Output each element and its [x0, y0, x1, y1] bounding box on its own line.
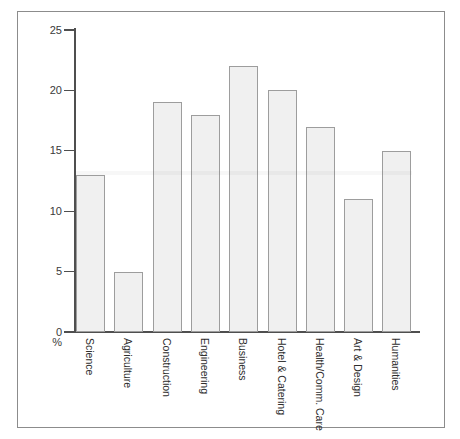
y-tick-mark-25	[64, 29, 74, 30]
y-tick-mark-0	[64, 331, 74, 332]
bar-hotel-catering	[268, 90, 297, 332]
category-label-construction: Construction	[161, 338, 173, 397]
category-label-humanities: Humanities	[390, 338, 402, 391]
category-label-engineering: Engineering	[199, 338, 211, 394]
y-tick-label-5: 5	[26, 264, 62, 278]
y-axis-unit-label: %	[26, 335, 62, 349]
category-label-health-comm-care: Health/Comm. Care	[314, 338, 326, 431]
category-label-business: Business	[237, 338, 249, 381]
bar-science	[76, 175, 105, 332]
y-tick-mark-10	[64, 211, 74, 212]
y-tick-label-15: 15	[26, 143, 62, 157]
bar-humanities	[382, 151, 411, 332]
bar-agriculture	[114, 272, 143, 332]
bar-business	[229, 66, 258, 332]
category-label-science: Science	[84, 338, 96, 375]
y-tick-label-20: 20	[26, 83, 62, 97]
y-tick-mark-20	[64, 90, 74, 91]
bar-health-comm-care	[306, 127, 335, 332]
scanned-bar-chart-page: 0510152025 % ScienceAgricultureConstruct…	[0, 0, 460, 439]
y-tick-label-10: 10	[26, 204, 62, 218]
bar-engineering	[191, 115, 220, 332]
category-label-agriculture: Agriculture	[122, 338, 134, 388]
bar-art-design	[344, 199, 373, 332]
y-tick-mark-15	[64, 150, 74, 151]
y-tick-label-25: 25	[26, 23, 62, 37]
category-label-art-design: Art & Design	[352, 338, 364, 397]
y-tick-mark-5	[64, 271, 74, 272]
category-label-hotel-catering: Hotel & Catering	[276, 338, 288, 415]
scan-artifact-band	[76, 171, 412, 175]
bar-construction	[153, 102, 182, 332]
